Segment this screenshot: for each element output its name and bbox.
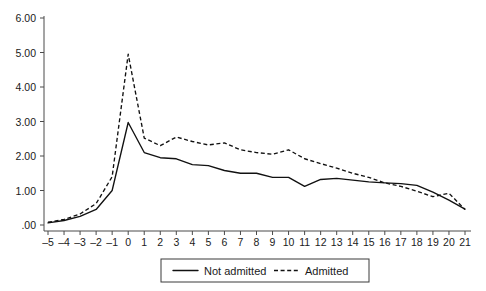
x-tick-label: 21 bbox=[459, 236, 471, 248]
y-tick-label: 6.00 bbox=[16, 12, 37, 24]
x-tick-label: 5 bbox=[205, 236, 211, 248]
legend-label-admitted: Admitted bbox=[305, 265, 348, 277]
x-tick-label: –3 bbox=[74, 236, 86, 248]
x-tick-label: 15 bbox=[363, 236, 375, 248]
y-tick-label: 5.00 bbox=[16, 47, 37, 59]
x-tick-label: –1 bbox=[106, 236, 118, 248]
x-tick-label: 14 bbox=[347, 236, 359, 248]
x-tick-label: 20 bbox=[443, 236, 455, 248]
x-tick-label: 16 bbox=[379, 236, 391, 248]
chart-figure: 6.005.004.003.002.001.00.00 –5–4–3–2–101… bbox=[0, 0, 486, 291]
y-axis: 6.005.004.003.002.001.00.00 bbox=[16, 12, 44, 231]
x-tick-label: 11 bbox=[299, 236, 310, 248]
x-tick-label: 6 bbox=[222, 236, 228, 248]
series-line-not-admitted bbox=[48, 123, 465, 223]
x-tick-label: 9 bbox=[270, 236, 276, 248]
x-tick-label: 19 bbox=[427, 236, 439, 248]
x-tick-label: 0 bbox=[125, 236, 131, 248]
y-tick-label: 3.00 bbox=[16, 116, 37, 128]
x-tick-label: –5 bbox=[42, 236, 54, 248]
chart-legend: Not admittedAdmitted bbox=[161, 259, 369, 282]
y-tick-label: 2.00 bbox=[16, 150, 37, 162]
x-tick-label: 17 bbox=[395, 236, 407, 248]
chart-series bbox=[48, 54, 465, 223]
y-tick-label: .00 bbox=[21, 219, 36, 231]
x-tick-label: 7 bbox=[238, 236, 244, 248]
x-tick-label: 18 bbox=[411, 236, 423, 248]
x-tick-label: 13 bbox=[331, 236, 343, 248]
x-tick-label: 8 bbox=[254, 236, 260, 248]
x-tick-label: 2 bbox=[157, 236, 163, 248]
x-tick-label: 10 bbox=[283, 236, 295, 248]
line-chart: 6.005.004.003.002.001.00.00 –5–4–3–2–101… bbox=[0, 0, 486, 291]
y-tick-label: 4.00 bbox=[16, 81, 37, 93]
x-tick-label: –2 bbox=[90, 236, 102, 248]
x-tick-label: 3 bbox=[173, 236, 179, 248]
x-tick-label: 12 bbox=[315, 236, 327, 248]
x-tick-label: 1 bbox=[141, 236, 147, 248]
y-tick-label: 1.00 bbox=[16, 185, 37, 197]
x-tick-label: –4 bbox=[58, 236, 70, 248]
x-axis: –5–4–3–2–1012345678910111213141516171819… bbox=[42, 231, 471, 248]
legend-label-not-admitted: Not admitted bbox=[204, 265, 266, 277]
series-line-admitted bbox=[48, 54, 465, 222]
x-tick-label: 4 bbox=[189, 236, 195, 248]
